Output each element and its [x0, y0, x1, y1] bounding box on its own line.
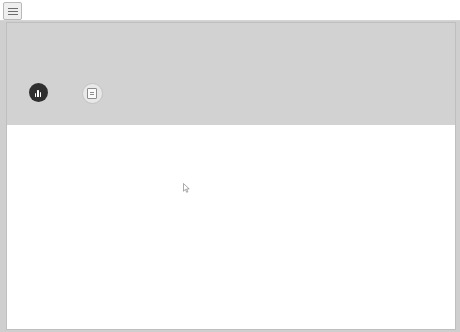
toggle-broken-report[interactable]	[71, 83, 113, 107]
bar-chart-icon	[29, 83, 48, 102]
hamburger-icon[interactable]	[3, 2, 22, 20]
view-toggle-group	[17, 83, 113, 107]
report-icon	[82, 83, 103, 104]
resource-availability-chart	[7, 125, 455, 329]
chart-plot-area	[7, 145, 455, 303]
hierarchy-summary	[7, 23, 455, 125]
title-bar	[0, 0, 460, 21]
chart-bars	[43, 145, 409, 277]
app-window	[0, 0, 460, 332]
toggle-resource-availability[interactable]	[17, 83, 59, 107]
page-content	[6, 22, 456, 330]
